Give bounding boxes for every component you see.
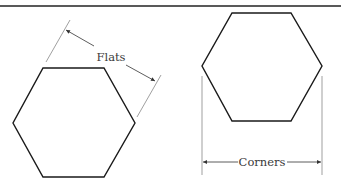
flats-extension-line-left: [46, 20, 70, 62]
hexagon-corners: [202, 13, 322, 121]
flats-arrow-upper: [66, 30, 94, 46]
flats-figure: Flats: [13, 20, 161, 177]
hexagon-flats: [13, 68, 135, 177]
corners-label: Corners: [239, 155, 286, 169]
flats-arrow-lower: [126, 65, 155, 81]
flats-extension-line-right: [137, 75, 161, 117]
hex-measurement-diagram: Flats Corners: [0, 0, 341, 186]
flats-label: Flats: [96, 50, 125, 64]
corners-figure: Corners: [202, 13, 322, 175]
